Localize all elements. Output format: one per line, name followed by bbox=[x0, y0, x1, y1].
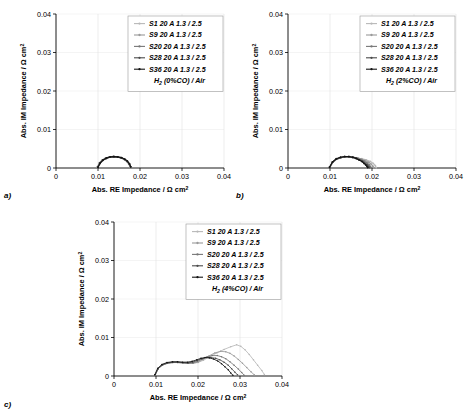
series-marker bbox=[157, 368, 159, 370]
series-marker bbox=[224, 366, 226, 368]
series-marker bbox=[161, 364, 163, 366]
svg-text:0: 0 bbox=[105, 372, 109, 381]
series-marker bbox=[230, 372, 232, 374]
series-marker bbox=[215, 358, 217, 360]
legend-entry-label: S20 20 A 1.3 / 2.5 bbox=[207, 251, 265, 259]
svg-text:0.03: 0.03 bbox=[407, 172, 421, 181]
svg-text:0.02: 0.02 bbox=[95, 295, 109, 304]
plot-c: 00.010.020.030.0400.010.020.030.04Abs. R… bbox=[58, 208, 290, 417]
series-marker bbox=[212, 355, 214, 357]
svg-text:0.03: 0.03 bbox=[233, 380, 247, 389]
legend-marker bbox=[370, 22, 372, 24]
series-marker bbox=[250, 371, 252, 373]
series-marker bbox=[368, 164, 370, 166]
legend-marker bbox=[138, 34, 140, 36]
svg-text:0.04: 0.04 bbox=[95, 218, 109, 227]
series-marker bbox=[375, 167, 377, 169]
legend-condition-label: H2 (2%CO) / Air bbox=[386, 77, 438, 86]
series-marker bbox=[233, 355, 235, 357]
x-axis-title: Abs. RE Impedance / Ω cm2 bbox=[92, 185, 189, 194]
svg-text:0.04: 0.04 bbox=[269, 10, 283, 19]
data-series-group bbox=[154, 344, 265, 376]
svg-text:0.01: 0.01 bbox=[91, 172, 105, 181]
series-marker bbox=[370, 167, 372, 169]
legend-entry-label: S36 20 A 1.3 / 2.5 bbox=[207, 274, 265, 282]
series-marker bbox=[264, 374, 266, 376]
series-marker bbox=[172, 361, 174, 363]
series-marker bbox=[182, 361, 184, 363]
series-marker bbox=[253, 359, 255, 361]
legend-entry-label: S1 20 A 1.3 / 2.5 bbox=[207, 228, 261, 236]
y-axis-title: Abs. IM Impedance / Ω cm2 bbox=[251, 44, 260, 139]
svg-text:0.03: 0.03 bbox=[269, 48, 283, 57]
series-marker bbox=[335, 158, 337, 160]
svg-text:0: 0 bbox=[47, 164, 51, 173]
series-marker bbox=[130, 166, 132, 168]
series-marker bbox=[367, 167, 369, 169]
legend-entry-label: S9 20 A 1.3 / 2.5 bbox=[207, 239, 261, 247]
series-marker bbox=[230, 346, 232, 348]
legend-entry-label: S28 20 A 1.3 / 2.5 bbox=[381, 54, 439, 62]
svg-text:0.02: 0.02 bbox=[37, 87, 51, 96]
chart-svg-c: 00.010.020.030.0400.010.020.030.04Abs. R… bbox=[58, 208, 290, 416]
series-marker bbox=[106, 157, 108, 159]
series-marker bbox=[358, 159, 360, 161]
legend-marker bbox=[370, 45, 372, 47]
chart-svg-a: 00.010.020.030.0400.010.020.030.04Abs. R… bbox=[0, 0, 232, 208]
legend: S1 20 A 1.3 / 2.5S9 20 A 1.3 / 2.5S20 20… bbox=[186, 224, 281, 299]
y-axis-title: Abs. IM Impedance / Ω cm2 bbox=[19, 44, 28, 139]
series-marker bbox=[236, 344, 238, 346]
legend-entry-label: S36 20 A 1.3 / 2.5 bbox=[381, 66, 439, 74]
series-marker bbox=[166, 362, 168, 364]
data-series-group bbox=[96, 156, 131, 169]
series-marker bbox=[187, 361, 189, 363]
legend-marker bbox=[370, 34, 372, 36]
chart-svg-b: 00.010.020.030.0400.010.020.030.04Abs. R… bbox=[232, 0, 464, 208]
series-marker bbox=[200, 358, 202, 360]
svg-text:0.01: 0.01 bbox=[269, 125, 283, 134]
series-marker bbox=[244, 349, 246, 351]
panel-label-a: a) bbox=[4, 191, 11, 200]
svg-text:0.01: 0.01 bbox=[149, 380, 163, 389]
x-axis-title: Abs. RE Impedance / Ω cm2 bbox=[324, 185, 421, 194]
series-marker bbox=[240, 346, 242, 348]
legend-marker bbox=[196, 230, 198, 232]
series-marker bbox=[223, 361, 225, 363]
plot-a: 00.010.020.030.0400.010.020.030.04Abs. R… bbox=[0, 0, 232, 208]
series-marker bbox=[221, 356, 223, 358]
series-line bbox=[98, 157, 131, 167]
series-marker bbox=[344, 156, 346, 158]
series-marker bbox=[352, 156, 354, 158]
legend-marker bbox=[196, 242, 198, 244]
legend-condition-label: H2 (0%CO) / Air bbox=[154, 77, 206, 86]
svg-text:0: 0 bbox=[279, 164, 283, 173]
legend-entry-label: S1 20 A 1.3 / 2.5 bbox=[149, 20, 203, 28]
series-marker bbox=[227, 369, 229, 371]
legend-marker bbox=[138, 68, 140, 70]
series-marker bbox=[370, 163, 372, 165]
legend-entry-label: S9 20 A 1.3 / 2.5 bbox=[149, 31, 203, 39]
svg-text:0.01: 0.01 bbox=[323, 172, 337, 181]
legend-entry-label: S20 20 A 1.3 / 2.5 bbox=[149, 43, 207, 51]
series-marker bbox=[154, 374, 156, 376]
series-marker bbox=[109, 156, 111, 158]
legend-entry-label: S1 20 A 1.3 / 2.5 bbox=[381, 20, 435, 28]
legend-entry-label: S28 20 A 1.3 / 2.5 bbox=[207, 262, 265, 270]
series-marker bbox=[232, 374, 234, 376]
series-marker bbox=[348, 156, 350, 158]
x-axis-title: Abs. RE Impedance / Ω cm2 bbox=[150, 393, 247, 402]
series-line bbox=[155, 345, 264, 375]
series-marker bbox=[369, 167, 371, 169]
svg-text:0: 0 bbox=[112, 380, 116, 389]
series-marker bbox=[127, 160, 129, 162]
svg-text:0: 0 bbox=[286, 172, 290, 181]
legend-entry-label: S20 20 A 1.3 / 2.5 bbox=[381, 43, 439, 51]
series-marker bbox=[363, 162, 365, 164]
series-marker bbox=[374, 165, 376, 167]
svg-text:0.02: 0.02 bbox=[133, 172, 147, 181]
series-marker bbox=[124, 158, 126, 160]
svg-text:0.03: 0.03 bbox=[95, 256, 109, 265]
series-marker bbox=[238, 359, 240, 361]
series-marker bbox=[220, 351, 222, 353]
series-marker bbox=[243, 374, 245, 376]
